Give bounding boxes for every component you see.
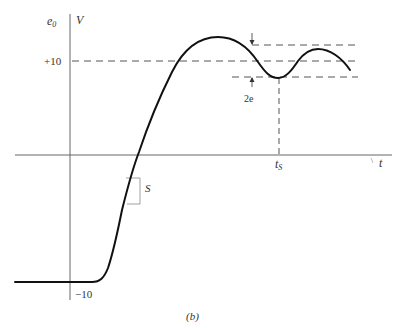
y-tick-upper: +10 [44, 56, 61, 67]
y-axis-unit: V [76, 14, 83, 26]
step-response-diagram [0, 0, 411, 328]
slope-label: S [145, 183, 151, 194]
band-arrowhead-top [250, 40, 255, 45]
band-arrowhead-bottom [250, 77, 255, 82]
settling-time-label: tS [275, 158, 282, 172]
slope-triangle [126, 178, 140, 204]
response-curve [15, 37, 350, 282]
y-tick-lower: −10 [75, 289, 92, 300]
x-axis-tick [371, 158, 373, 163]
figure-caption: (b) [186, 311, 199, 322]
band-label: 2e [244, 94, 253, 104]
x-axis-label: t [379, 157, 382, 169]
y-axis-label: e0 [47, 15, 56, 29]
